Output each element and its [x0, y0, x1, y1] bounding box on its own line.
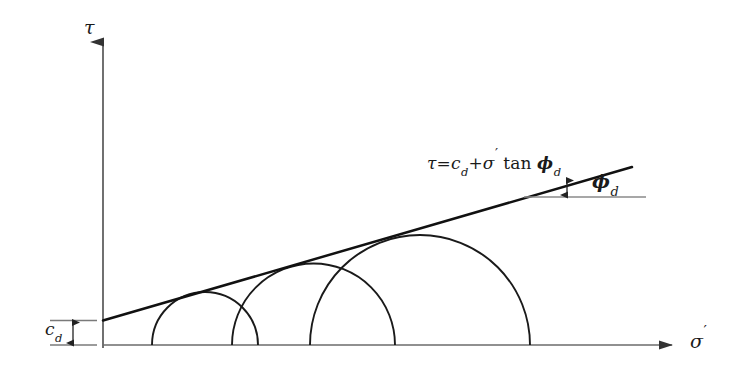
cd-c-symbol: c — [45, 319, 55, 339]
prime-symbol: ′ — [703, 322, 706, 340]
eq-c-subscript: d — [461, 165, 469, 179]
eq-plus-symbol: + — [469, 153, 483, 173]
eq-c-symbol: c — [451, 153, 461, 173]
eq-tau-symbol: τ — [427, 153, 437, 173]
cd-subscript: d — [55, 331, 62, 345]
mohr-circle-1 — [152, 292, 258, 345]
tau-axis-label: τ — [84, 18, 95, 37]
sigma-prime-axis-label: σ′ — [690, 329, 706, 351]
mohr-coulomb-figure: τ σ′ τ=cd+σ′ tan ϕd ϕd cd — [0, 0, 736, 381]
eq-tan-symbol: tan — [503, 153, 531, 173]
tau-symbol: τ — [84, 16, 95, 38]
phi-d-angle-label: ϕd — [592, 172, 619, 196]
phi-symbol: ϕ — [592, 170, 610, 192]
failure-envelope-line — [103, 167, 632, 321]
envelope-equation-label: τ=cd+σ′ tan ϕd — [427, 151, 561, 176]
sigma-symbol: σ — [690, 330, 703, 352]
mohr-diagram-svg — [0, 0, 736, 381]
eq-equals-symbol: = — [437, 153, 451, 173]
eq-phi-symbol: ϕ — [537, 153, 553, 173]
eq-phi-subscript: d — [554, 165, 562, 179]
cd-cohesion-label: cd — [45, 321, 62, 342]
eq-prime-symbol: ′ — [495, 145, 498, 161]
eq-sigma-symbol: σ — [483, 153, 495, 173]
phi-subscript: d — [610, 184, 618, 199]
